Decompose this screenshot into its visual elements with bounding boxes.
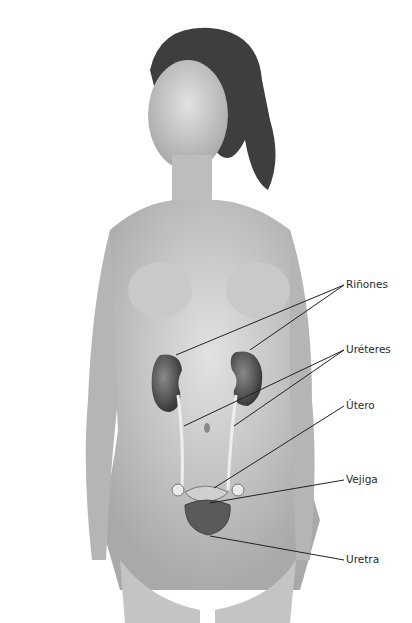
label-kidneys: Riñones <box>346 278 388 290</box>
label-urethra: Uretra <box>346 553 379 565</box>
kidney-left <box>152 355 182 412</box>
body-illustration <box>0 0 412 623</box>
label-uterus: Útero <box>346 399 375 411</box>
anatomy-figure: Riñones Uréteres Útero Vejiga Uretra <box>0 0 412 623</box>
label-bladder: Vejiga <box>346 473 378 485</box>
head <box>148 60 228 170</box>
label-ureters: Uréteres <box>346 343 391 355</box>
